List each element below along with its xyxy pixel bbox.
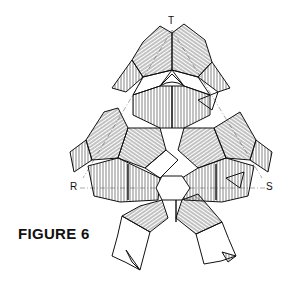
figure-caption: FIGURE 6 (18, 226, 90, 241)
bottom-left-petal (112, 200, 168, 270)
figure-canvas: T R S FIGURE 6 (0, 0, 290, 282)
middle-module (133, 86, 218, 128)
bottom-right-petal (176, 194, 236, 264)
center-hub (156, 176, 190, 200)
point-label-left: R (70, 182, 77, 192)
right-module (178, 112, 272, 202)
point-label-top: T (168, 16, 174, 26)
point-label-right: S (266, 182, 273, 192)
top-module (112, 24, 230, 95)
